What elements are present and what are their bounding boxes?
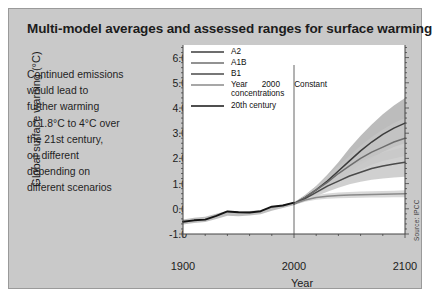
legend-item-label: A2 <box>231 47 241 56</box>
chart-panel: Multi-model averages and assessed ranges… <box>8 8 422 289</box>
legend-item-label: Year2000Constant <box>231 80 327 89</box>
legend-item-label: 20th century <box>231 101 276 110</box>
legend-item-label: A1B <box>231 58 246 67</box>
plot-area <box>9 9 423 290</box>
legend-item-label-cont: concentrations <box>231 89 284 98</box>
figure-root: Multi-model averages and assessed ranges… <box>0 0 443 296</box>
source-credit: Source: IPCC <box>413 171 420 241</box>
legend-item-label: B1 <box>231 69 241 78</box>
